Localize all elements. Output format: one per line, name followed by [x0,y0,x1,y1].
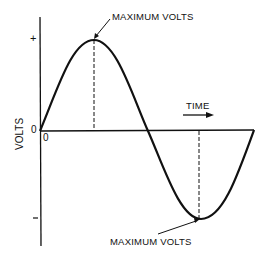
origin-y-label: 0 [31,124,37,135]
y-axis-label: VOLTS [14,118,25,150]
x-axis-label: TIME [186,100,210,111]
plus-label: + [30,32,37,44]
peak-arrow [96,19,110,36]
diagram-graphics [0,0,264,260]
trough-label: MAXIMUM VOLTS [110,236,192,247]
peak-label: MAXIMUM VOLTS [112,11,194,22]
arrow-right-icon [206,112,214,118]
origin-x-label: 0 [43,132,49,143]
trough-arrow [158,221,196,234]
sine-wave-diagram: MAXIMUM VOLTS MAXIMUM VOLTS TIME VOLTS +… [0,0,264,260]
